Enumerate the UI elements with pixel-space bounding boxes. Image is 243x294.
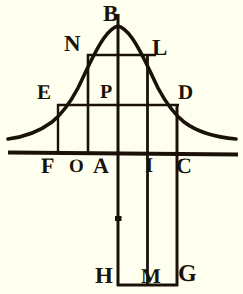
- label-point-a: A: [93, 155, 109, 177]
- label-point-l: L: [152, 36, 167, 59]
- label-point-h: H: [95, 264, 113, 287]
- label-point-m: M: [141, 266, 161, 287]
- label-point-b: B: [103, 2, 118, 25]
- label-point-e: E: [37, 82, 51, 103]
- label-point-g: G: [178, 262, 197, 286]
- bell-curve-diagram: [0, 0, 243, 294]
- label-point-c: C: [176, 155, 192, 177]
- label-point-p: P: [100, 82, 112, 102]
- label-point-f: F: [41, 155, 54, 177]
- label-point-i: I: [145, 155, 153, 176]
- label-point-o: O: [69, 157, 84, 176]
- axis-tick-mark: [115, 216, 122, 221]
- label-point-d: D: [178, 82, 193, 103]
- figure-container: B N L E P D F O A I C H M G: [0, 0, 243, 294]
- label-point-n: N: [64, 32, 81, 55]
